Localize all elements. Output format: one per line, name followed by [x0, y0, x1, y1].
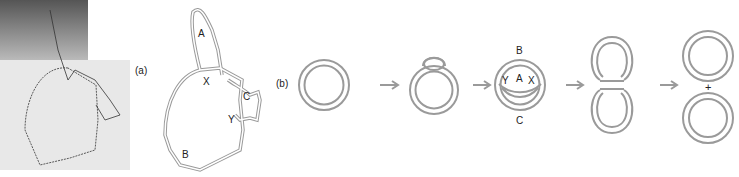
- label-b: B: [182, 149, 189, 160]
- theta-label-y: Y: [502, 75, 509, 86]
- theta-label-x: X: [528, 75, 535, 86]
- theta-label-b: B: [516, 45, 523, 56]
- plus-sign: +: [705, 81, 711, 93]
- label-y: Y: [228, 114, 235, 125]
- label-c: C: [243, 91, 250, 102]
- panel-a-label: (a): [135, 65, 147, 76]
- replication-diagram: B Y A X C +: [290, 0, 739, 177]
- label-x: X: [203, 76, 210, 87]
- tracing-diagram: A X C Y B: [160, 0, 280, 177]
- theta-label-a: A: [516, 73, 523, 84]
- panel-b-label: (b): [276, 78, 288, 89]
- theta-label-c: C: [516, 115, 523, 126]
- micrograph-image: [0, 0, 135, 170]
- label-a: A: [198, 28, 205, 39]
